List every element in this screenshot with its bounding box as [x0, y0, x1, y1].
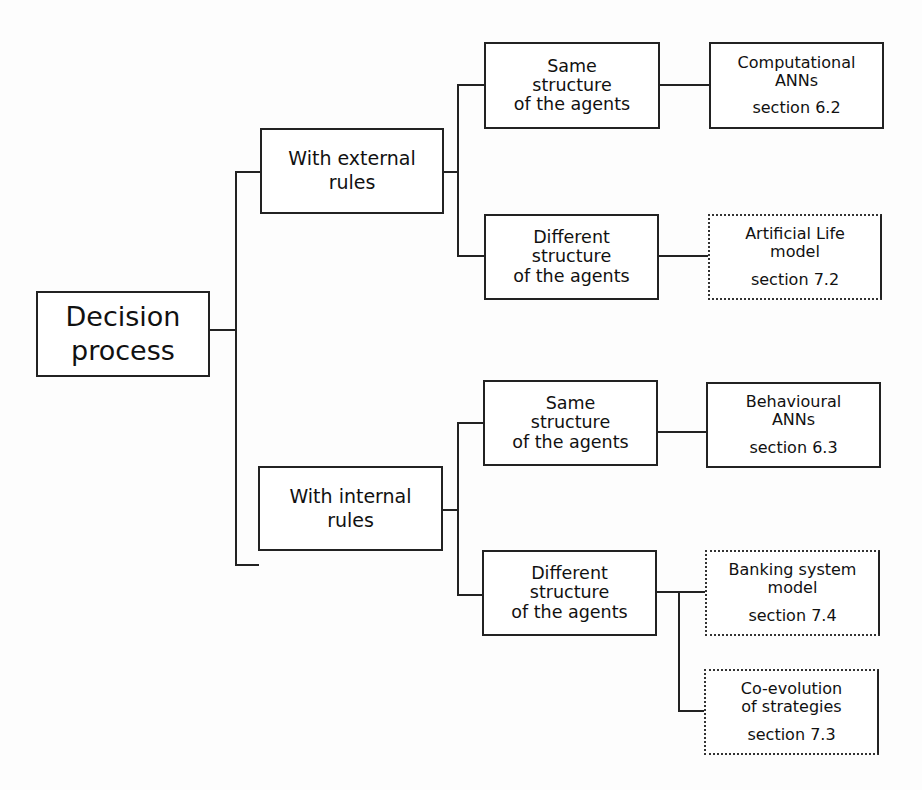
connector-banking: [656, 591, 706, 593]
node-label: rules: [329, 171, 376, 195]
node-label: of the agents: [514, 95, 630, 114]
node-label: Same: [546, 394, 596, 413]
connector-co-evolution: [678, 710, 705, 712]
node-label: With external: [288, 147, 415, 171]
node-label: With internal: [289, 485, 411, 509]
connector-root-trunk: [235, 171, 237, 566]
section-reference: section 6.2: [752, 99, 840, 117]
node-int-same-structure: Same structure of the agents: [483, 380, 658, 466]
connector-internal-trunk: [457, 422, 459, 596]
section-reference: section 7.3: [747, 726, 835, 744]
connector-ext-same: [457, 84, 485, 86]
node-label: ANNs: [772, 411, 815, 429]
node-label: of the agents: [511, 603, 627, 622]
node-label: process: [71, 334, 175, 368]
node-artificial-life-model: Artificial Life model section 7.2: [708, 214, 882, 300]
section-reference: section 7.4: [748, 607, 836, 625]
node-label: ANNs: [775, 72, 818, 90]
node-label: structure: [531, 413, 610, 432]
node-with-external-rules: With external rules: [260, 128, 444, 214]
connector-root: [209, 329, 237, 331]
node-int-different-structure: Different structure of the agents: [482, 550, 657, 636]
node-label: Different: [531, 564, 608, 583]
node-label: Computational: [738, 54, 856, 72]
node-ext-different-structure: Different structure of the agents: [484, 214, 659, 300]
connector-external: [235, 171, 261, 173]
node-behavioural-anns: Behavioural ANNs section 6.3: [706, 382, 881, 468]
node-with-internal-rules: With internal rules: [258, 466, 443, 551]
node-decision-process: Decision process: [36, 291, 210, 377]
node-label: Decision: [66, 300, 181, 334]
node-banking-system-model: Banking system model section 7.4: [705, 550, 880, 636]
section-reference: section 6.3: [749, 439, 837, 457]
connector-external-trunk: [457, 84, 459, 257]
connector-ext-diff: [457, 255, 485, 257]
node-label: of strategies: [741, 698, 841, 716]
node-computational-anns: Computational ANNs section 6.2: [709, 42, 884, 129]
connector-int-same: [457, 422, 484, 424]
node-label: model: [770, 243, 820, 261]
node-co-evolution-of-strategies: Co-evolution of strategies section 7.3: [704, 669, 879, 755]
node-label: Behavioural: [746, 393, 841, 411]
node-label: Same: [547, 57, 597, 76]
connector-computational: [659, 84, 710, 86]
connector-behavioural: [657, 431, 707, 433]
node-label: rules: [327, 509, 374, 533]
node-label: Co-evolution: [741, 680, 842, 698]
node-label: structure: [532, 247, 611, 266]
node-label: structure: [532, 76, 611, 95]
node-label: of the agents: [513, 267, 629, 286]
node-label: model: [768, 579, 818, 597]
connector-banking-trunk: [678, 591, 680, 712]
connector-internal: [235, 564, 259, 566]
connector-int-diff: [457, 594, 484, 596]
node-label: Different: [533, 228, 610, 247]
node-ext-same-structure: Same structure of the agents: [484, 42, 660, 129]
node-label: Banking system: [729, 561, 857, 579]
node-label: Artificial Life: [745, 225, 845, 243]
connector-artificial-life: [658, 255, 709, 257]
node-label: structure: [530, 583, 609, 602]
section-reference: section 7.2: [751, 271, 839, 289]
node-label: of the agents: [512, 433, 628, 452]
